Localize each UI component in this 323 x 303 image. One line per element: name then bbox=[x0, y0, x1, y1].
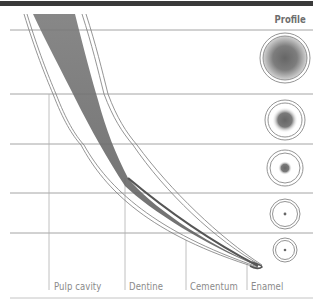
profile-title: Profile bbox=[275, 14, 306, 25]
profile-circle-5 bbox=[273, 238, 297, 262]
profile-circle-3 bbox=[267, 150, 303, 186]
leader-lines bbox=[49, 94, 247, 290]
label-pulp-cavity: Pulp cavity bbox=[54, 281, 101, 292]
label-enamel: Enamel bbox=[251, 281, 283, 292]
profile-circle-4 bbox=[270, 199, 300, 229]
label-cementum: Cementum bbox=[190, 281, 238, 292]
pulp-cavity-shape bbox=[33, 14, 258, 266]
profile-circle-1 bbox=[260, 33, 310, 83]
label-dentine: Dentine bbox=[129, 281, 163, 292]
root-canal bbox=[128, 178, 258, 266]
tooth-cross-section-diagram bbox=[0, 0, 323, 303]
profile-circle-2 bbox=[265, 100, 305, 140]
top-bar bbox=[0, 1, 313, 6]
